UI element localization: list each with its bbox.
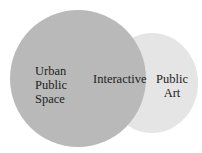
public-art-label: Public Art [156, 72, 188, 100]
label-line: Space [35, 92, 67, 106]
urban-public-space-label: Urban Public Space [35, 64, 67, 106]
label-line: Art [156, 86, 188, 100]
label-line: Urban [35, 64, 67, 78]
label-line: Public [156, 72, 188, 86]
label-line: Public [35, 78, 67, 92]
intersection-label: Interactive [93, 72, 146, 86]
